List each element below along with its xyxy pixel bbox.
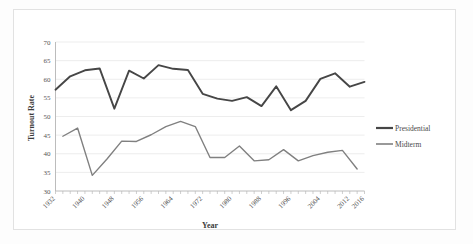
x-tick-label: 1948 (100, 194, 116, 210)
chart-svg: 303540455055606570 193219401948195619641… (0, 0, 473, 244)
x-tick-label: 1972 (189, 194, 205, 210)
y-tick-label: 70 (44, 39, 52, 47)
chart-legend: PresidentialMidterm (376, 124, 430, 149)
y-tick-label: 45 (44, 132, 52, 140)
x-tick-label: 1980 (218, 194, 234, 210)
y-tick-label: 55 (44, 94, 52, 102)
x-axis-title: Year (202, 221, 218, 230)
y-tick-label: 50 (44, 113, 52, 121)
x-tick-label: 1932 (41, 194, 57, 210)
y-tick-label: 35 (44, 169, 52, 177)
gridlines (56, 42, 365, 172)
y-axis-title: Turnout Rate (27, 94, 36, 141)
x-tick-label: 1996 (277, 194, 293, 210)
y-tick-label: 60 (44, 76, 52, 84)
chart-page: 303540455055606570 193219401948195619641… (0, 0, 473, 244)
x-tick-label: 1964 (159, 194, 175, 210)
x-tick-label: 2016 (350, 194, 366, 210)
legend-label-presidential: Presidential (395, 124, 430, 133)
x-tick-label: 2004 (306, 194, 322, 210)
y-tick-label: 40 (44, 150, 52, 158)
y-tick-label: 30 (44, 188, 52, 196)
series-line-midterm (63, 121, 357, 175)
y-tick-labels: 303540455055606570 (44, 39, 52, 196)
x-tick-label: 1940 (71, 194, 87, 210)
x-tick-label: 1988 (247, 194, 263, 210)
x-tick-labels: 1932194019481956196419721980198819962004… (41, 194, 366, 210)
x-tick-label: 2012 (336, 194, 352, 210)
line-chart: 303540455055606570 193219401948195619641… (0, 0, 473, 244)
data-series (56, 65, 365, 175)
y-tick-label: 65 (44, 57, 52, 65)
legend-label-midterm: Midterm (395, 140, 421, 149)
series-line-presidential (56, 65, 365, 110)
x-tick-label: 1956 (130, 194, 146, 210)
